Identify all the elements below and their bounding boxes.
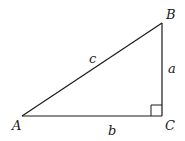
triangle-diagram: B C A a b c (0, 0, 185, 141)
vertex-label-c: C (165, 118, 175, 133)
side-label-b: b (108, 123, 116, 138)
side-label-a: a (168, 61, 176, 76)
vertex-label-a: A (11, 118, 21, 133)
vertex-label-b: B (165, 7, 176, 22)
side-label-c: c (89, 51, 97, 66)
side-c-hypotenuse (22, 23, 162, 116)
right-angle-marker (151, 105, 162, 116)
